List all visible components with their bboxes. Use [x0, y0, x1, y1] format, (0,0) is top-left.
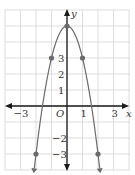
- x-axis-label: x: [126, 108, 132, 119]
- data-point: [64, 23, 69, 28]
- y-tick-label: 3: [58, 53, 64, 64]
- y-tick-label: −3: [52, 149, 67, 160]
- y-tick-label: 1: [58, 85, 64, 96]
- curve-arrow-icon: [97, 168, 103, 173]
- curve-arrow-icon: [31, 168, 37, 173]
- y-tick-label: 2: [58, 69, 64, 80]
- x-axis-arrow-left-icon: [5, 103, 12, 109]
- data-point: [33, 151, 38, 156]
- data-point: [95, 151, 100, 156]
- y-tick-label: −2: [52, 133, 67, 144]
- origin-label: O: [56, 108, 64, 119]
- x-tick-label: 3: [112, 108, 118, 119]
- x-tick-label: 1: [81, 108, 87, 119]
- data-point: [49, 55, 54, 60]
- data-point: [80, 55, 85, 60]
- y-axis-label: y: [70, 8, 77, 19]
- parabola-graph: −313321−2−3 x y O: [0, 0, 135, 175]
- x-tick-label: −3: [14, 108, 29, 119]
